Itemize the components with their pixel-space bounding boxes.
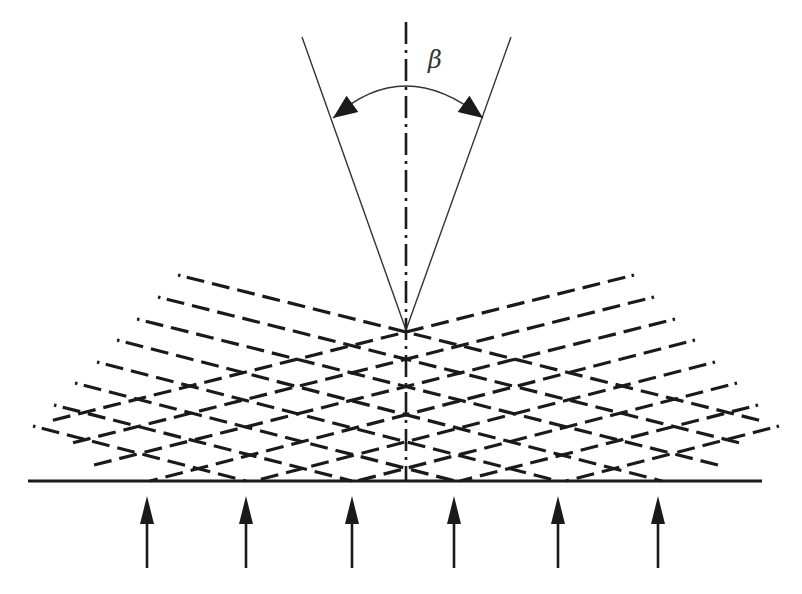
ascending-wavefront-dot — [735, 383, 737, 384]
angle-beta-label: β — [428, 48, 442, 72]
descending-wavefront-dot — [178, 275, 180, 276]
arc-arrowhead-left-icon — [333, 96, 358, 118]
ascending-wavefront-dot — [693, 340, 695, 341]
descending-wavefront-dot — [117, 340, 119, 341]
ascending-wavefront — [150, 342, 686, 481]
ascending-wavefront — [357, 385, 728, 481]
descending-wavefront-dot — [97, 362, 99, 363]
descending-wavefront-dot — [54, 405, 56, 406]
descending-wavefront-dot — [158, 297, 160, 298]
ascending-wavefront-dot — [632, 275, 634, 276]
ray-line — [302, 37, 406, 330]
angle-arc — [333, 86, 483, 118]
angle-arc-line — [333, 86, 483, 118]
descending-wavefront — [167, 299, 740, 443]
ascending-wavefront — [50, 277, 625, 421]
ascending-wavefront — [94, 321, 666, 465]
incident-arrow-icon — [651, 496, 665, 568]
ascending-wavefront-dot — [756, 405, 758, 406]
ascending-wavefront-dot — [713, 362, 715, 363]
ascending-wavefront-dot — [673, 319, 675, 320]
incident-arrow-icon — [239, 496, 253, 568]
incident-arrow-icon — [551, 496, 565, 568]
ascending-wavefront — [72, 299, 645, 443]
ray-line — [406, 37, 511, 330]
descending-wavefront-dot — [75, 383, 77, 384]
incident-arrows — [140, 496, 665, 568]
ascending-wavefront — [566, 428, 770, 481]
arc-arrowhead-right-icon — [458, 96, 483, 118]
arrow-head — [447, 496, 461, 524]
incident-arrow-icon — [447, 496, 461, 568]
arrow-head — [551, 496, 565, 524]
incident-arrow-icon — [345, 496, 359, 568]
descending-wavefront — [126, 342, 662, 481]
arrow-head — [345, 496, 359, 524]
wavefront-diagram — [0, 0, 802, 594]
ascending-wavefront-dot — [777, 426, 779, 427]
arrow-head — [239, 496, 253, 524]
descending-wavefront — [42, 428, 246, 481]
arrow-head — [651, 496, 665, 524]
incident-arrow-icon — [140, 496, 154, 568]
descending-wavefront-dot — [33, 426, 35, 427]
ascending-wavefront-dot — [652, 297, 654, 298]
arrow-head — [140, 496, 154, 524]
descending-wavefront-dot — [137, 319, 139, 320]
descending-wavefront — [146, 321, 718, 465]
